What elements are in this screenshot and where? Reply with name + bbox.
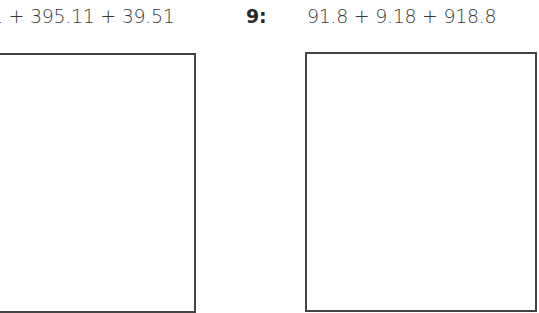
problem-9-number: 9:	[246, 4, 266, 28]
problem-9-answer-box[interactable]	[305, 52, 537, 312]
problem-9-expression: 91.8 + 9.18 + 918.8	[307, 4, 496, 28]
problem-8-answer-box[interactable]	[0, 53, 196, 313]
problem-8-expression: 1 + 395.11 + 39.51	[0, 4, 175, 28]
